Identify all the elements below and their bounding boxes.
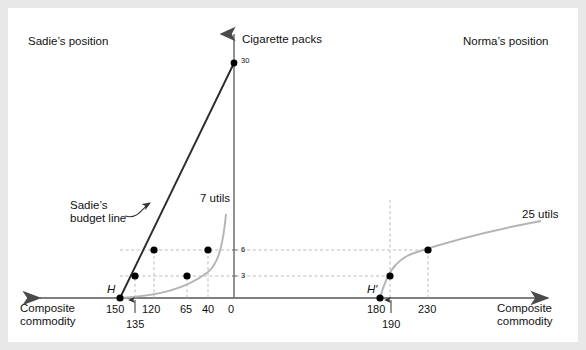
vertical-axis-label: Cigarette packs <box>242 33 322 45</box>
x-tick-150: 150 <box>106 303 124 315</box>
point-budget-135-3 <box>131 272 138 279</box>
note-sadie-budget-line-line1: Sadie’s <box>70 199 126 212</box>
y-tick-6: 6 <box>241 245 245 254</box>
axis-caption-right: Composite commodity <box>497 302 553 328</box>
axis-caption-right-line1: Composite <box>497 302 553 315</box>
axis-caption-left-line2: commodity <box>20 315 76 328</box>
figure-card: Sadie’s position Norma’s position Cigare… <box>8 8 578 342</box>
point-budget-120-6 <box>150 246 157 253</box>
point-curve-65-3 <box>183 272 190 279</box>
x-tick-120: 120 <box>142 303 160 315</box>
sadie-budget-line <box>120 63 234 298</box>
economics-diagram <box>8 8 578 342</box>
point-h-prime <box>376 294 383 301</box>
x-tick-180: 180 <box>367 303 385 315</box>
point-curve-230-6 <box>424 246 431 253</box>
x-tick-40: 40 <box>202 303 214 315</box>
x-tick-135: 135 <box>126 318 144 330</box>
indifference-curve-25-utils <box>380 221 541 298</box>
note-sadie-budget-line-line2: budget line <box>70 212 126 225</box>
x-tick-65: 65 <box>180 303 192 315</box>
y-value-30: 30 <box>241 56 249 65</box>
axis-caption-left-line1: Composite <box>20 302 76 315</box>
label-point-h-prime: H′ <box>367 283 377 295</box>
data-points <box>116 60 431 302</box>
x-tick-230: 230 <box>418 303 436 315</box>
point-curve-190-3 <box>386 272 393 279</box>
label-7-utils: 7 utils <box>200 192 230 204</box>
label-point-h: H <box>107 283 115 295</box>
indifference-curve-7-utils <box>120 214 226 298</box>
note-sadie-budget-line: Sadie’s budget line <box>70 199 126 225</box>
point-30-packs <box>231 60 238 67</box>
y-tick-3: 3 <box>241 271 245 280</box>
x-tick-190: 190 <box>382 318 400 330</box>
point-curve-40-6 <box>204 246 211 253</box>
label-25-utils: 25 utils <box>522 208 558 220</box>
header-norma-position: Norma’s position <box>463 35 548 47</box>
x-tick-origin: 0 <box>228 303 234 315</box>
axis-caption-left: Composite commodity <box>20 302 76 328</box>
gridlines <box>120 198 428 298</box>
header-sadie-position: Sadie’s position <box>28 35 108 47</box>
budget-line-leader-arrow <box>125 203 150 217</box>
point-h <box>116 294 123 301</box>
axis-caption-right-line2: commodity <box>497 315 553 328</box>
